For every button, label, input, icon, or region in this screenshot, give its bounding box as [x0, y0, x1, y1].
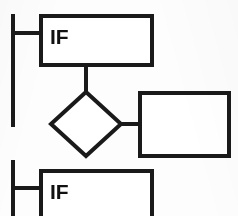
diagram-canvas: IF IF — [0, 0, 238, 216]
node-decision-diamond[interactable] — [51, 92, 121, 156]
flowchart-svg: IF IF — [0, 0, 238, 216]
node-if-top-label: IF — [50, 25, 69, 48]
node-action-box[interactable] — [140, 93, 229, 156]
node-if-bottom-label: IF — [50, 180, 69, 203]
